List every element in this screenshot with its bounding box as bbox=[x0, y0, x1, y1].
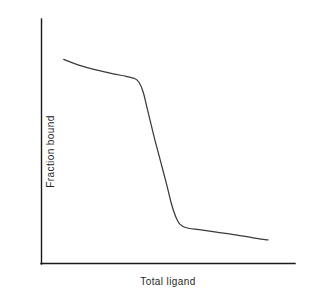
data-curve-fraction-bound bbox=[64, 59, 268, 240]
x-axis-label: Total ligand bbox=[41, 276, 295, 287]
chart-figure: Fraction bound Total ligand bbox=[0, 0, 311, 303]
y-axis-label: Fraction bound bbox=[0, 0, 42, 303]
y-axis-label-text: Fraction bound bbox=[45, 115, 56, 187]
